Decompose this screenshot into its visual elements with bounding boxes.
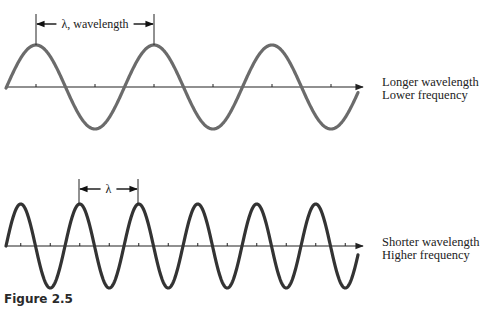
long-wave-description: Longer wavelength Lower frequency <box>382 76 479 102</box>
figure-caption: Figure 2.5 <box>4 292 73 306</box>
long-wave-label-line2: Lower frequency <box>382 89 479 102</box>
short-wave-description: Shorter wavelength Higher frequency <box>382 236 480 262</box>
wavelength-label: λ, wavelength <box>61 17 128 31</box>
short-wave-label-line2: Higher frequency <box>382 249 480 262</box>
long-wavelength-wave: λ, wavelength <box>6 14 363 129</box>
wave-comparison-figure: λ, wavelength λ <box>0 0 484 309</box>
short-wavelength-wave: λ <box>6 179 363 288</box>
wavelength-label: λ <box>106 182 112 196</box>
